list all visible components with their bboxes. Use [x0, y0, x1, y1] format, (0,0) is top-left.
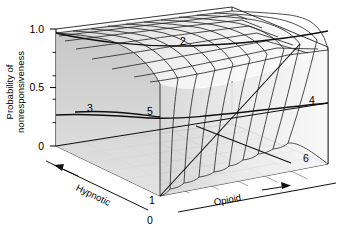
marker-label-4: 4 [309, 94, 315, 106]
vertical-axis-title: Probability of nonresponsiveness [4, 51, 26, 133]
opioid-axis-title: Opioid [213, 192, 242, 208]
hypnotic-axis-title: Hypnotic [74, 182, 112, 208]
marker-label-1: 1 [149, 194, 155, 206]
vertical-axis-title-line1: Probability of [4, 64, 15, 119]
ytick-label-1: 1.0 [29, 23, 44, 35]
arrow-up-left-icon [54, 164, 78, 176]
plot-canvas: 1.0 0.5 0 Probability of nonresponsivene… [0, 0, 343, 232]
response-surface [56, 11, 328, 196]
vertical-axis [50, 29, 56, 146]
marker-label-3: 3 [87, 102, 93, 114]
ytick-label-3: 0 [38, 140, 44, 152]
arrow-right-icon [262, 182, 291, 190]
ytick-label-2: 0.5 [29, 81, 44, 93]
marker-label-2: 2 [180, 35, 186, 47]
vertical-axis-title-line2: nonresponsiveness [15, 51, 26, 133]
marker-label-5: 5 [147, 105, 153, 117]
marker-label-0: 0 [147, 214, 153, 226]
marker-label-6: 6 [303, 152, 309, 164]
surface-plot-figure: 1.0 0.5 0 Probability of nonresponsivene… [0, 0, 343, 232]
